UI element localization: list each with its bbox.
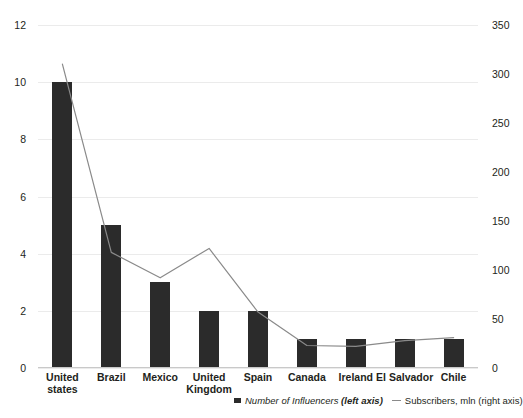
bar <box>346 339 366 368</box>
right-axis-tick-label: 200 <box>492 167 510 178</box>
bar <box>101 225 121 368</box>
left-axis-tick-label: 6 <box>20 192 26 203</box>
legend-item-influencers: Number of Influencers (left axis) <box>234 395 383 406</box>
right-axis-tick-label: 100 <box>492 265 510 276</box>
category-label: Chile <box>423 371 484 383</box>
gridline <box>38 139 478 140</box>
right-axis-tick-label: 350 <box>492 20 510 31</box>
gridline <box>38 25 478 26</box>
chart-legend: Number of Influencers (left axis) Subscr… <box>234 395 523 406</box>
line-swatch-icon <box>392 400 401 401</box>
bar <box>248 311 268 368</box>
legend-item-subscribers: Subscribers, mln (right axis) <box>392 395 523 406</box>
chart-container: 024681012 050100150200250300350 United s… <box>0 0 523 418</box>
bar <box>297 339 317 368</box>
bar <box>150 282 170 368</box>
left-axis-tick-label: 8 <box>20 134 26 145</box>
gridline <box>38 82 478 83</box>
legend-label-influencers: Number of Influencers (left axis) <box>245 395 383 406</box>
left-axis-tick-label: 0 <box>20 363 26 374</box>
right-axis-tick-label: 50 <box>492 314 504 325</box>
legend-label-subscribers: Subscribers, mln (right axis) <box>405 395 523 406</box>
left-axis: 024681012 <box>0 25 34 368</box>
plot-area <box>38 25 478 368</box>
bar <box>395 339 415 368</box>
bar <box>52 82 72 368</box>
left-axis-tick-label: 10 <box>14 77 26 88</box>
gridline <box>38 368 478 369</box>
left-axis-tick-label: 2 <box>20 306 26 317</box>
left-axis-tick-label: 4 <box>20 249 26 260</box>
bar <box>199 311 219 368</box>
right-axis: 050100150200250300350 <box>484 25 518 368</box>
right-axis-tick-label: 150 <box>492 216 510 227</box>
right-axis-tick-label: 250 <box>492 118 510 129</box>
x-axis-baseline <box>38 367 478 368</box>
bar-swatch-icon <box>234 398 241 403</box>
gridline <box>38 197 478 198</box>
bar <box>444 339 464 368</box>
right-axis-tick-label: 300 <box>492 69 510 80</box>
right-axis-tick-label: 0 <box>492 363 498 374</box>
left-axis-tick-label: 12 <box>14 20 26 31</box>
